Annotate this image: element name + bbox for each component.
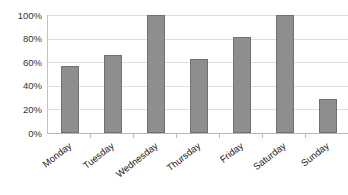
x-axis-tick: [305, 134, 306, 138]
bar-wednesday: [147, 15, 165, 133]
bar-thursday: [190, 59, 208, 133]
x-axis-tick: [176, 134, 177, 138]
y-axis-label-80: 80%: [0, 33, 42, 44]
x-axis-label-wednesday: Wednesday: [113, 140, 159, 179]
y-axis-label-40: 40%: [0, 80, 42, 91]
y-axis-label-60: 60%: [0, 57, 42, 68]
x-axis-label-tuesday: Tuesday: [81, 140, 116, 171]
x-axis-tick: [133, 134, 134, 138]
bar-chart: 100%80%60%40%20%0% MondayTuesdayWednesda…: [0, 0, 348, 195]
y-axis-label-100: 100%: [0, 10, 42, 21]
gridline-100: [48, 15, 348, 16]
bar-monday: [61, 66, 79, 133]
plot-area: [47, 15, 348, 134]
bar-friday: [233, 37, 251, 133]
x-axis-tick: [90, 134, 91, 138]
gridline-80: [48, 39, 348, 40]
x-axis-label-saturday: Saturday: [252, 140, 289, 172]
x-axis-tick: [262, 134, 263, 138]
bar-saturday: [276, 15, 294, 133]
bar-tuesday: [104, 55, 122, 133]
x-axis-label-sunday: Sunday: [299, 140, 331, 169]
x-axis-label-thursday: Thursday: [164, 140, 202, 173]
bar-sunday: [319, 99, 337, 133]
x-axis-label-monday: Monday: [40, 140, 73, 169]
y-axis-label-20: 20%: [0, 104, 42, 115]
x-axis-label-friday: Friday: [218, 140, 246, 165]
x-axis-tick: [219, 134, 220, 138]
y-axis-label-0: 0%: [0, 128, 42, 139]
